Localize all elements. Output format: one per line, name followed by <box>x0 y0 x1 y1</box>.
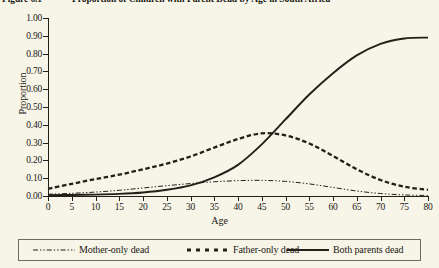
figure-container: Figure 6.1 Proportion of Children with P… <box>0 0 439 268</box>
chart-legend: Mother-only deadFather-only deadBoth par… <box>18 239 421 261</box>
x-tick-label: 60 <box>320 202 346 212</box>
x-tick-mark <box>96 197 97 201</box>
figure-title-row: Figure 6.1 Proportion of Children with P… <box>0 0 439 8</box>
series-line-3 <box>48 38 428 196</box>
x-tick-mark <box>191 197 192 201</box>
x-tick-mark <box>286 197 287 201</box>
y-tick-label: 0.00 <box>0 191 42 201</box>
x-tick-mark <box>262 197 263 201</box>
x-tick-mark <box>48 197 49 201</box>
y-tick-label: 1.00 <box>0 13 42 23</box>
x-tick-mark <box>167 197 168 201</box>
legend-item: Both parents dead <box>287 243 404 258</box>
legend-label: Mother-only dead <box>79 244 149 255</box>
legend-label: Both parents dead <box>333 244 404 255</box>
x-axis-title: Age <box>0 215 439 226</box>
page-title: Proportion of Children with Parent Dead … <box>72 0 330 4</box>
legend-item: Father-only dead <box>187 243 299 258</box>
x-tick-label: 35 <box>201 202 227 212</box>
legend-swatch-dash-dot-dot-icon <box>33 246 75 254</box>
x-tick-label: 0 <box>35 202 61 212</box>
x-tick-mark <box>214 197 215 201</box>
x-tick-label: 70 <box>368 202 394 212</box>
x-tick-mark <box>143 197 144 201</box>
series-line-2 <box>48 133 428 190</box>
x-tick-mark <box>381 197 382 201</box>
x-tick-label: 75 <box>391 202 417 212</box>
x-tick-label: 30 <box>178 202 204 212</box>
x-tick-label: 40 <box>225 202 251 212</box>
x-tick-mark <box>404 197 405 201</box>
legend-swatch-solid-icon <box>287 246 329 254</box>
plot-area <box>48 18 428 196</box>
series-line-1 <box>48 180 428 195</box>
x-tick-mark <box>357 197 358 201</box>
x-tick-label: 80 <box>415 202 439 212</box>
chart-curves <box>48 18 428 196</box>
figure-number: Figure 6.1 <box>2 0 42 4</box>
x-tick-label: 25 <box>154 202 180 212</box>
y-tick-label: 0.90 <box>0 31 42 41</box>
x-tick-mark <box>238 197 239 201</box>
x-tick-label: 50 <box>273 202 299 212</box>
legend-item: Mother-only dead <box>33 243 149 258</box>
y-tick-label: 0.30 <box>0 138 42 148</box>
x-tick-mark <box>333 197 334 201</box>
x-tick-label: 20 <box>130 202 156 212</box>
x-tick-label: 10 <box>83 202 109 212</box>
y-tick-label: 0.20 <box>0 155 42 165</box>
x-tick-label: 45 <box>249 202 275 212</box>
x-tick-mark <box>119 197 120 201</box>
x-tick-mark <box>72 197 73 201</box>
x-tick-mark <box>309 197 310 201</box>
y-axis-title: Proportion <box>17 49 28 139</box>
x-tick-label: 5 <box>59 202 85 212</box>
x-tick-label: 15 <box>106 202 132 212</box>
legend-swatch-dashed-icon <box>187 246 229 254</box>
x-tick-label: 65 <box>344 202 370 212</box>
x-tick-mark <box>428 197 429 201</box>
y-tick-label: 0.10 <box>0 173 42 183</box>
x-tick-label: 55 <box>296 202 322 212</box>
